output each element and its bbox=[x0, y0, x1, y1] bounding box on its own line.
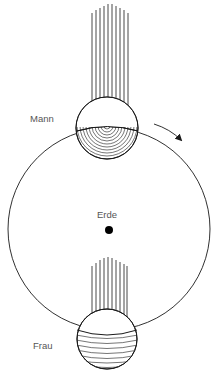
label-erde: Erde bbox=[97, 209, 117, 220]
label-mann: Mann bbox=[30, 113, 54, 124]
bottom-sphere-frau bbox=[76, 309, 138, 369]
top-sphere-mann bbox=[70, 90, 145, 159]
rotation-arrow-icon bbox=[154, 124, 181, 140]
earth-diagram bbox=[0, 0, 213, 385]
earth-center-dot bbox=[105, 226, 113, 234]
top-light-rays bbox=[92, 4, 128, 110]
label-frau: Frau bbox=[33, 340, 53, 351]
